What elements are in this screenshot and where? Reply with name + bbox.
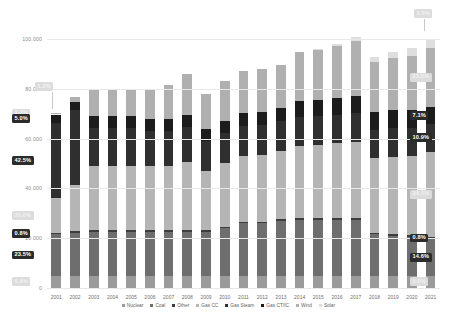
legend-item-coal[interactable]: Coal: [150, 303, 165, 308]
bar-segment-nuclear[interactable]: [145, 276, 155, 288]
bar-2012[interactable]: [257, 69, 267, 288]
bar-segment-gassteam[interactable]: [201, 141, 211, 171]
bar-segment-coal[interactable]: [295, 220, 305, 276]
legend-item-gasctic[interactable]: Gas CT/IC: [261, 303, 289, 308]
bar-segment-gassteam[interactable]: [370, 130, 380, 159]
bar-segment-gassteam[interactable]: [89, 128, 99, 165]
legend-item-wind[interactable]: Wind: [296, 303, 312, 308]
bar-segment-gasctic[interactable]: [370, 112, 380, 130]
bar-segment-wind[interactable]: [201, 94, 211, 129]
bar-segment-nuclear[interactable]: [313, 276, 323, 288]
bar-segment-gassteam[interactable]: [239, 126, 249, 156]
bar-2007[interactable]: [164, 85, 174, 288]
bar-segment-coal[interactable]: [370, 234, 380, 275]
bar-segment-gascc[interactable]: [295, 146, 305, 218]
bar-segment-gasctic[interactable]: [295, 101, 305, 117]
bar-segment-nuclear[interactable]: [182, 276, 192, 288]
bar-2011[interactable]: [239, 71, 249, 288]
bar-2018[interactable]: [370, 57, 380, 288]
bar-segment-wind[interactable]: [351, 41, 361, 96]
bar-segment-gascc[interactable]: [351, 142, 361, 218]
bar-segment-gascc[interactable]: [164, 166, 174, 231]
bar-segment-gassteam[interactable]: [257, 125, 267, 155]
bar-segment-gassteam[interactable]: [126, 128, 136, 165]
bar-segment-wind[interactable]: [332, 46, 342, 98]
bar-segment-other[interactable]: [145, 230, 155, 231]
bar-segment-gasctic[interactable]: [126, 116, 136, 128]
bar-segment-gasctic[interactable]: [108, 116, 118, 128]
bar-segment-gassteam[interactable]: [51, 123, 61, 198]
bar-segment-other[interactable]: [388, 234, 398, 235]
bar-segment-nuclear[interactable]: [295, 276, 305, 288]
bar-segment-other[interactable]: [239, 222, 249, 223]
bar-segment-gascc[interactable]: [126, 166, 136, 231]
bar-segment-gasctic[interactable]: [388, 110, 398, 128]
bar-segment-other[interactable]: [370, 233, 380, 234]
bar-segment-gassteam[interactable]: [164, 131, 174, 166]
bar-segment-nuclear[interactable]: [388, 276, 398, 288]
bar-segment-nuclear[interactable]: [164, 276, 174, 288]
bar-segment-gasctic[interactable]: [332, 98, 342, 114]
bar-segment-gassteam[interactable]: [276, 121, 286, 151]
bar-segment-other[interactable]: [108, 230, 118, 231]
bar-segment-solar[interactable]: [332, 44, 342, 46]
bar-segment-solar[interactable]: [407, 48, 417, 55]
bar-segment-gascc[interactable]: [276, 151, 286, 220]
bar-segment-nuclear[interactable]: [89, 276, 99, 288]
bar-segment-wind[interactable]: [239, 71, 249, 113]
bar-segment-wind[interactable]: [70, 97, 80, 101]
bar-segment-wind[interactable]: [388, 58, 398, 110]
bar-segment-gasctic[interactable]: [164, 119, 174, 131]
bar-segment-wind[interactable]: [276, 65, 286, 109]
bar-2008[interactable]: [182, 74, 192, 288]
bar-segment-coal[interactable]: [51, 234, 61, 275]
bar-segment-gascc[interactable]: [70, 185, 80, 231]
bar-segment-nuclear[interactable]: [51, 276, 61, 288]
bar-segment-solar[interactable]: [370, 57, 380, 62]
bar-segment-other[interactable]: [201, 230, 211, 231]
bar-2016[interactable]: [332, 44, 342, 288]
bar-segment-wind[interactable]: [370, 62, 380, 112]
bar-segment-gassteam[interactable]: [145, 131, 155, 166]
bar-segment-coal[interactable]: [276, 221, 286, 276]
bar-segment-nuclear[interactable]: [276, 276, 286, 288]
bar-segment-gassteam[interactable]: [108, 128, 118, 165]
bar-2009[interactable]: [201, 94, 211, 288]
bar-segment-gascc[interactable]: [51, 198, 61, 233]
bar-segment-other[interactable]: [70, 231, 80, 232]
bar-segment-nuclear[interactable]: [70, 276, 80, 288]
bar-segment-coal[interactable]: [351, 220, 361, 276]
legend-item-gascc[interactable]: Gas CC: [196, 303, 218, 308]
bar-segment-other[interactable]: [126, 230, 136, 231]
legend-item-nuclear[interactable]: Nuclear: [122, 303, 144, 308]
bar-segment-coal[interactable]: [332, 220, 342, 276]
bar-segment-wind[interactable]: [220, 81, 230, 121]
bar-segment-gascc[interactable]: [313, 145, 323, 218]
bar-segment-nuclear[interactable]: [108, 276, 118, 288]
bar-segment-nuclear[interactable]: [201, 276, 211, 288]
bar-segment-gascc[interactable]: [388, 157, 398, 234]
bar-segment-nuclear[interactable]: [220, 276, 230, 288]
bar-segment-gasctic[interactable]: [182, 115, 192, 127]
bar-segment-wind[interactable]: [295, 52, 305, 101]
bar-2014[interactable]: [295, 52, 305, 288]
bar-segment-gasctic[interactable]: [145, 119, 155, 131]
bar-segment-gascc[interactable]: [201, 171, 211, 231]
bar-2017[interactable]: [351, 37, 361, 288]
legend-item-solar[interactable]: Solar: [319, 303, 335, 308]
bar-segment-gasctic[interactable]: [276, 108, 286, 120]
bar-segment-other[interactable]: [295, 218, 305, 219]
bar-segment-gascc[interactable]: [89, 166, 99, 231]
bar-segment-gascc[interactable]: [370, 158, 380, 233]
bar-segment-other[interactable]: [182, 230, 192, 231]
bar-segment-coal[interactable]: [313, 220, 323, 276]
bar-segment-nuclear[interactable]: [351, 276, 361, 288]
bar-segment-nuclear[interactable]: [126, 276, 136, 288]
bar-segment-gasctic[interactable]: [89, 116, 99, 128]
bar-2002[interactable]: [70, 97, 80, 288]
bar-segment-gascc[interactable]: [182, 162, 192, 231]
bar-segment-gasctic[interactable]: [257, 112, 267, 124]
bar-2015[interactable]: [313, 49, 323, 288]
bar-segment-gascc[interactable]: [332, 143, 342, 218]
bar-segment-gasctic[interactable]: [313, 100, 323, 116]
